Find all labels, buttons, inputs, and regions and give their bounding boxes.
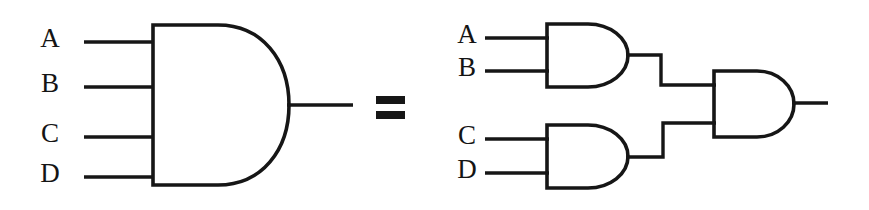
- input-label-a2: A: [457, 19, 477, 49]
- diagram-canvas: A B C D A B: [0, 0, 869, 210]
- left-circuit-four-input-and: A B C D: [40, 23, 353, 188]
- input-label-c: C: [41, 118, 59, 148]
- input-label-c2: C: [458, 120, 476, 150]
- equals-bar-top: [376, 96, 405, 104]
- and-gate-body-ab: [547, 24, 628, 87]
- input-label-d2: D: [457, 154, 477, 184]
- and-gate-cd: C D: [457, 120, 628, 188]
- and-gate-body-cd: [547, 125, 628, 188]
- and-gate-body-4input: [153, 25, 289, 185]
- left-input-labels: A B C D: [40, 23, 60, 188]
- and-gate-ab: A B: [457, 19, 628, 87]
- and-gate-body-final: [714, 71, 794, 137]
- left-input-wires: [84, 42, 154, 177]
- and-gate-final: [714, 71, 828, 137]
- input-label-a: A: [40, 23, 60, 53]
- interconnect-wires: [626, 55, 716, 157]
- input-label-b2: B: [458, 52, 476, 82]
- wire-cd-to-final: [626, 123, 716, 157]
- input-label-b: B: [41, 68, 59, 98]
- input-label-d: D: [40, 158, 60, 188]
- equals-bar-bottom: [376, 111, 405, 119]
- wire-ab-to-final: [626, 55, 716, 85]
- equals-sign: [376, 96, 405, 119]
- logic-gate-equivalence-figure: A B C D A B: [0, 0, 869, 210]
- right-circuit-cascaded-and: A B C D: [457, 19, 828, 188]
